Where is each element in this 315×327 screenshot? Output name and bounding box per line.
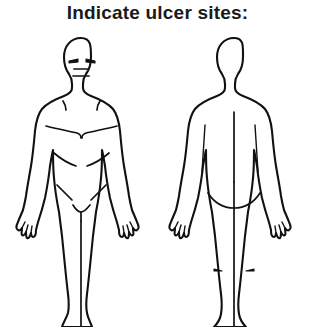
- anterior-body-diagram[interactable]: [14, 30, 148, 327]
- face-right-eye-icon: [86, 59, 95, 63]
- page-title: Indicate ulcer sites:: [0, 2, 315, 24]
- ulcer-site-assessment-form: Indicate ulcer sites:: [0, 0, 315, 327]
- anterior-body-outline: [17, 38, 139, 327]
- right-knee-crease: [246, 269, 254, 271]
- body-diagram-group: [0, 30, 315, 327]
- posterior-body-outline: [170, 38, 291, 327]
- posterior-body-diagram[interactable]: [167, 30, 301, 327]
